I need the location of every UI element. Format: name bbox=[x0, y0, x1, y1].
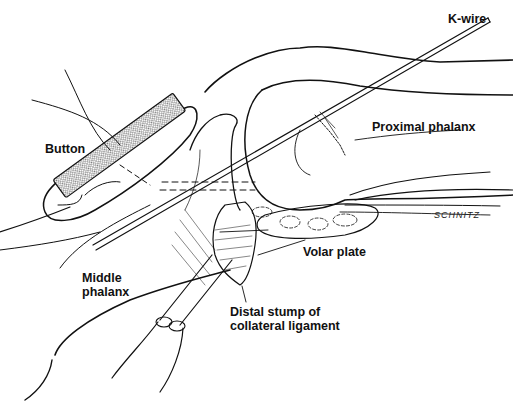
suture-line-2 bbox=[32, 100, 120, 145]
forceps-handle-2 bbox=[160, 328, 183, 392]
suture-line-1 bbox=[65, 70, 110, 150]
label-distal-stump-line1: Distal stump of bbox=[230, 305, 320, 319]
label-proximal-phalanx: Proximal phalanx bbox=[372, 120, 476, 134]
artist-signature: SCHNITZ bbox=[434, 210, 480, 220]
label-middle-phalanx-line1: Middle bbox=[82, 271, 122, 285]
middle-phalanx-base bbox=[190, 114, 240, 210]
leader-distal-stump bbox=[242, 286, 246, 302]
label-volar-plate: Volar plate bbox=[303, 245, 366, 259]
forceps-handle-1 bbox=[112, 322, 158, 378]
leader-volar-plate bbox=[258, 240, 305, 255]
label-button: Button bbox=[45, 142, 85, 156]
label-k-wire: K-wire bbox=[448, 12, 486, 26]
fingertip-contour bbox=[25, 360, 52, 400]
label-middle-phalanx-line2: phalanx bbox=[82, 285, 129, 299]
proximal-phalanx-head bbox=[262, 80, 513, 95]
dorsal-contour-left bbox=[60, 205, 150, 268]
label-distal-stump-line2: collateral ligament bbox=[230, 319, 340, 333]
illustration-canvas bbox=[0, 0, 513, 404]
button-pad bbox=[43, 107, 197, 221]
